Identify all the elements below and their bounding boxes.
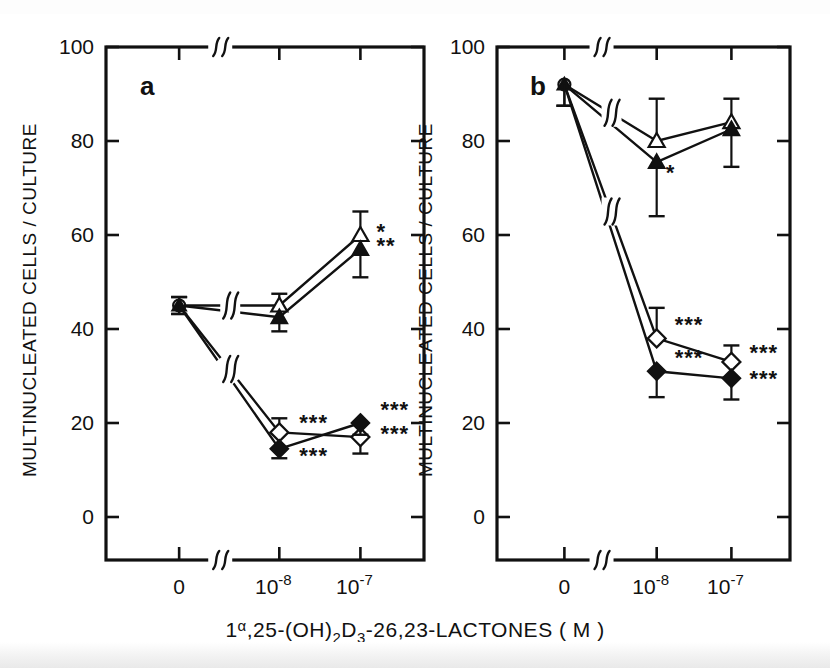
marker-filled-triangle bbox=[352, 241, 368, 255]
y-tick-label-b-20: 20 bbox=[462, 411, 485, 434]
axis-break-mask bbox=[590, 551, 614, 569]
line-break-upper-a bbox=[220, 292, 240, 320]
series-b-open-diamond bbox=[564, 85, 731, 362]
panel-frame-a bbox=[106, 47, 424, 560]
markers-a-open-triangle bbox=[171, 212, 368, 312]
series-line bbox=[179, 306, 360, 449]
significance-mark-b-filled-triangle-1: * bbox=[666, 160, 676, 185]
marker-filled-diamond bbox=[722, 369, 740, 387]
axis-break-mask bbox=[590, 38, 614, 56]
marker-open-diamond bbox=[648, 329, 666, 347]
panel-a: 020406080100a***************010-810-7 bbox=[59, 35, 424, 598]
series-a-open-triangle bbox=[179, 235, 360, 306]
marker-open-triangle bbox=[352, 227, 368, 241]
y-tick-label-b-80: 80 bbox=[462, 129, 485, 152]
y-tick-label-b-40: 40 bbox=[462, 317, 485, 340]
y-tick-label-a-80: 80 bbox=[71, 129, 94, 152]
axis-break-bottom-a bbox=[208, 551, 232, 569]
significance-mark-b-open-diamond-1: *** bbox=[675, 312, 704, 337]
x-tick-label-a-0: 0 bbox=[173, 575, 185, 598]
marker-filled-diamond bbox=[270, 440, 288, 458]
significance-mark-a-open-diamond-2: *** bbox=[380, 421, 409, 446]
y-tick-label-a-0: 0 bbox=[82, 505, 94, 528]
y-tick-label-b-100: 100 bbox=[450, 35, 485, 58]
x-tick-label-b-2: 10-7 bbox=[707, 571, 744, 598]
panel-label-a: a bbox=[140, 71, 155, 101]
y-tick-label-a-100: 100 bbox=[59, 35, 94, 58]
series-line bbox=[564, 85, 731, 362]
markers-b-filled-diamond bbox=[556, 85, 740, 400]
significance-mark-b-filled-diamond-1: *** bbox=[675, 345, 704, 370]
series-line bbox=[179, 306, 360, 438]
y-tick-label-b-0: 0 bbox=[473, 505, 485, 528]
x-tick-label-b-0: 0 bbox=[559, 575, 571, 598]
marker-filled-diamond bbox=[648, 362, 666, 380]
axis-break-top-b bbox=[590, 38, 614, 56]
figure-container: 020406080100a***************010-810-7020… bbox=[0, 0, 830, 668]
series-line bbox=[179, 235, 360, 306]
significance-mark-b-open-diamond-2: *** bbox=[749, 340, 778, 365]
significance-mark-a-filled-triangle-2: ** bbox=[376, 233, 395, 258]
x-tick-label-a-1: 10-8 bbox=[255, 571, 292, 598]
page-top-margin bbox=[0, 0, 830, 14]
series-a-open-diamond bbox=[179, 306, 360, 438]
y-tick-label-b-60: 60 bbox=[462, 223, 485, 246]
axis-break-mask bbox=[208, 551, 232, 569]
y-tick-label-a-40: 40 bbox=[71, 317, 94, 340]
y-axis-title: MULTINUCLEATED CELLS / CULTURE bbox=[19, 123, 40, 477]
y-axis-title-b: MULTINUCLEATED CELLS / CULTURE bbox=[415, 123, 436, 477]
significance-mark-a-open-diamond-1: *** bbox=[299, 410, 328, 435]
y-tick-label-a-20: 20 bbox=[71, 411, 94, 434]
axis-break-mask bbox=[208, 38, 232, 56]
line-break-upper-b bbox=[602, 99, 622, 127]
y-tick-label-a-60: 60 bbox=[71, 223, 94, 246]
page-bottom-margin bbox=[0, 642, 830, 668]
x-tick-label-b-1: 10-8 bbox=[632, 571, 669, 598]
series-a-filled-diamond bbox=[179, 306, 360, 449]
line-break-lower-b bbox=[602, 198, 622, 226]
significance-mark-a-filled-diamond-1: *** bbox=[299, 443, 328, 468]
axis-break-bottom-b bbox=[590, 551, 614, 569]
panel-label-b: b bbox=[530, 71, 546, 101]
panel-b: 020406080100b*************010-810-7 bbox=[450, 35, 790, 598]
significance-mark-b-filled-diamond-2: *** bbox=[749, 366, 778, 391]
series-b-open-triangle bbox=[564, 85, 731, 141]
marker-filled-diamond bbox=[351, 414, 369, 432]
scientific-figure: 020406080100a***************010-810-7020… bbox=[0, 0, 830, 668]
series-line bbox=[564, 85, 731, 141]
axis-break-top-a bbox=[208, 38, 232, 56]
x-tick-label-a-2: 10-7 bbox=[336, 571, 373, 598]
significance-mark-a-filled-diamond-2: *** bbox=[380, 397, 409, 422]
